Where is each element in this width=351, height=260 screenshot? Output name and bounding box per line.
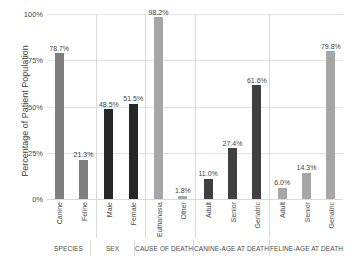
x-tick-cell: Geriatric [245, 200, 269, 238]
bar-group-sex: 48.5%51.5% [96, 14, 146, 199]
bar-cell: 21.3% [71, 14, 95, 199]
x-tick-cell: Geriatric [319, 200, 343, 238]
x-tick-cell: Euthanasia [146, 200, 170, 238]
bar[interactable]: 27.4% [228, 148, 237, 199]
x-tick-label: Senior [303, 202, 310, 222]
y-tick-label: 0% [3, 195, 43, 204]
group-labels: SPECIESSEXCAUSE OF DEATHCANINE-AGE AT DE… [47, 240, 343, 256]
bar[interactable]: 6.0% [278, 188, 287, 199]
bar-group-feline-age-at-death: 6.0%14.3%79.8% [269, 14, 343, 199]
bar-cell: 11.0% [196, 14, 220, 199]
bar[interactable]: 11.0% [204, 179, 213, 199]
bar-value-label: 21.3% [74, 151, 94, 158]
bar-value-label: 1.8% [175, 187, 191, 194]
x-tick-label: Euthanasia [155, 202, 162, 237]
x-tick-label: Adult [205, 202, 212, 218]
y-tick-label: 50% [3, 102, 43, 111]
bar-value-label: 48.5% [99, 101, 119, 108]
bar-value-label: 51.5% [123, 95, 143, 102]
y-tick-label: 25% [3, 148, 43, 157]
bar-group-canine-age-at-death: 11.0%27.4%61.6% [195, 14, 269, 199]
bar-cell: 1.8% [171, 14, 195, 199]
x-tick-label: Adult [279, 202, 286, 218]
x-tick-cell: Canine [47, 200, 71, 238]
bar-group-species: 78.7%21.3% [47, 14, 96, 199]
bar[interactable]: 14.3% [302, 173, 311, 199]
group-label: FELINE-AGE AT DEATH [269, 240, 343, 256]
bar-group-cause-of-death: 98.2%1.8% [145, 14, 195, 199]
x-tick-group: EuthanasiaOther [145, 200, 195, 238]
bar-cell: 79.8% [319, 14, 343, 199]
bar-value-label: 14.3% [297, 164, 317, 171]
group-label: SEX [90, 240, 134, 256]
x-tick-cell: Adult [196, 200, 220, 238]
bar-cell: 61.6% [245, 14, 269, 199]
x-tick-group: CanineFeline [47, 200, 96, 238]
x-tick-group: AdultSeniorGeriatric [269, 200, 343, 238]
bar-value-label: 6.0% [274, 179, 290, 186]
x-tick-label: Geriatric [327, 202, 334, 228]
bar[interactable]: 79.8% [326, 51, 335, 199]
x-tick-cell: Female [121, 200, 145, 238]
bar-cell: 6.0% [270, 14, 294, 199]
x-tick-cell: Senior [294, 200, 318, 238]
bar[interactable]: 48.5% [104, 109, 113, 199]
bar[interactable]: 51.5% [129, 104, 138, 199]
x-tick-cell: Adult [270, 200, 294, 238]
bar-cell: 48.5% [97, 14, 121, 199]
bar-value-label: 61.6% [247, 77, 267, 84]
x-tick-cell: Other [171, 200, 195, 238]
x-tick-label: Senior [229, 202, 236, 222]
bar-cell: 51.5% [121, 14, 145, 199]
x-tick-group: AdultSeniorGeriatric [195, 200, 269, 238]
x-tick-label: Geriatric [253, 202, 260, 228]
x-tick-labels: CanineFelineMaleFemaleEuthanasiaOtherAdu… [47, 200, 343, 238]
x-tick-cell: Senior [220, 200, 244, 238]
bar-chart: Percentage of Patient Population 0%25%50… [0, 0, 351, 260]
y-tick-label: 75% [3, 56, 43, 65]
group-label: CAUSE OF DEATH [134, 240, 193, 256]
x-tick-label: Male [105, 202, 112, 217]
bar[interactable]: 21.3% [79, 160, 88, 199]
bar-cell: 14.3% [294, 14, 318, 199]
bar[interactable]: 98.2% [154, 17, 163, 199]
bar-value-label: 11.0% [199, 170, 218, 177]
bar-groups: 78.7%21.3%48.5%51.5%98.2%1.8%11.0%27.4%6… [47, 14, 343, 199]
y-tick-label: 100% [3, 10, 43, 19]
x-tick-cell: Feline [71, 200, 95, 238]
bar-value-label: 79.8% [321, 43, 341, 50]
bar[interactable]: 61.6% [252, 85, 261, 199]
group-label: SPECIES [47, 240, 90, 256]
x-tick-label: Canine [56, 202, 63, 224]
bar-value-label: 98.2% [149, 9, 169, 16]
x-tick-label: Other [179, 202, 186, 220]
x-tick-label: Female [130, 202, 137, 225]
x-tick-group: MaleFemale [96, 200, 146, 238]
bar-cell: 98.2% [146, 14, 170, 199]
group-label: CANINE-AGE AT DEATH [193, 240, 269, 256]
bar-value-label: 27.4% [223, 140, 243, 147]
x-tick-label: Feline [80, 202, 87, 221]
bar-cell: 27.4% [220, 14, 244, 199]
bar[interactable]: 78.7% [55, 53, 64, 199]
bar-value-label: 78.7% [49, 45, 69, 52]
bar-cell: 78.7% [47, 14, 71, 199]
x-tick-cell: Male [97, 200, 121, 238]
